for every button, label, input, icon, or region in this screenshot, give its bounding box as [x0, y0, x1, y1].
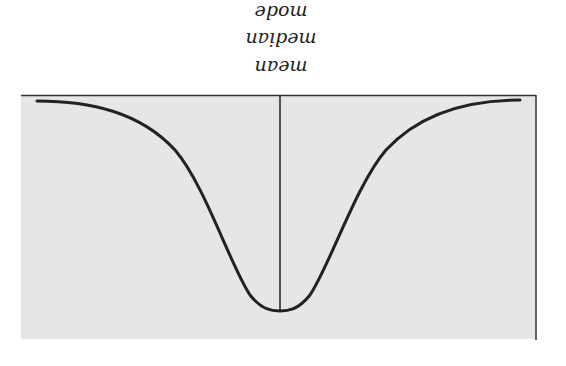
label-mode: mode	[255, 2, 308, 24]
label-mean: mean	[255, 57, 308, 79]
center-labels: mean median mode	[245, 2, 316, 79]
normal-distribution-figure: mean median mode	[0, 0, 566, 366]
label-median: median	[245, 29, 316, 51]
plot-area	[21, 95, 536, 339]
